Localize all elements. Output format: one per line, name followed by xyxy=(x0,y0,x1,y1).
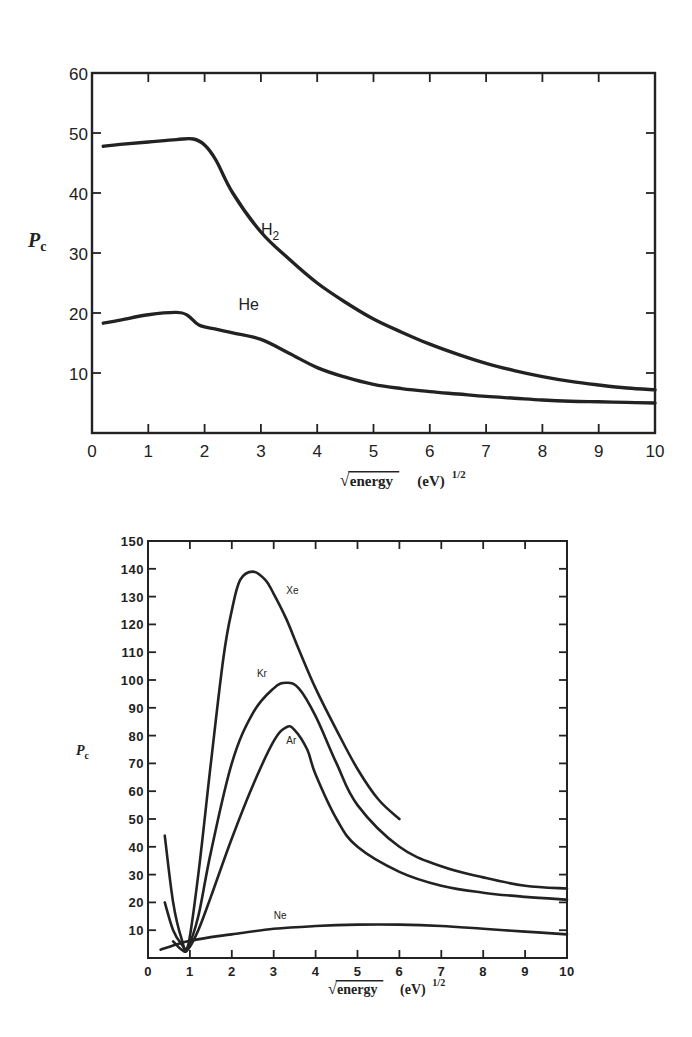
x-tick-label: 5 xyxy=(369,442,378,461)
y-tick-label: 10 xyxy=(129,923,144,938)
sqrt-symbol: √ xyxy=(328,980,337,997)
y-tick-label: 140 xyxy=(121,562,144,577)
x-tick-label: 1 xyxy=(144,442,153,461)
x-axis-label: √energy(eV)1/2 xyxy=(328,977,445,998)
x-tick-labels: 012345678910 xyxy=(144,964,575,979)
y-tick-label: 40 xyxy=(129,840,144,855)
y-axis-label: Pc xyxy=(76,743,90,761)
series-label-he: He xyxy=(238,296,259,313)
x-tick-label: 2 xyxy=(228,964,236,979)
axis-ticks xyxy=(92,73,655,433)
x-tick-label: 8 xyxy=(479,964,487,979)
plot-frame xyxy=(92,73,655,433)
x-tick-label: 9 xyxy=(594,442,603,461)
y-tick-label: 80 xyxy=(129,729,144,744)
y-tick-label: 20 xyxy=(69,305,88,324)
x-tick-label: 3 xyxy=(256,442,265,461)
series-line-ne xyxy=(161,924,567,949)
x-tick-label: 10 xyxy=(559,964,574,979)
x-tick-label: 7 xyxy=(481,442,490,461)
y-tick-label: 30 xyxy=(69,245,88,264)
y-tick-label: 20 xyxy=(129,895,144,910)
x-axis-term: energy xyxy=(350,473,394,489)
series-label-xe: Xe xyxy=(286,585,299,596)
x-tick-label: 2 xyxy=(200,442,209,461)
y-tick-label: 90 xyxy=(129,701,144,716)
y-tick-label: 150 xyxy=(121,534,144,549)
x-axis-term: energy xyxy=(337,982,377,997)
series-label-ar: Ar xyxy=(286,735,297,746)
sqrt-symbol: √ xyxy=(340,471,350,490)
x-tick-label: 1 xyxy=(186,964,194,979)
y-axis-label: Pc xyxy=(27,229,46,254)
x-tick-label: 0 xyxy=(144,964,152,979)
series-line-he xyxy=(103,312,655,403)
x-axis-label: √energy(eV)1/2 xyxy=(340,468,466,490)
x-tick-labels: 012345678910 xyxy=(87,442,664,461)
series-lines xyxy=(103,139,655,403)
series-line-kr xyxy=(165,683,567,949)
chart-xe-kr-ar-ne: 012345678910 102030405060708090100110120… xyxy=(76,534,575,998)
y-tick-label: 40 xyxy=(69,185,88,204)
y-tick-label: 50 xyxy=(69,125,88,144)
figure-canvas: 012345678910 102030405060 H2He Pc √energ… xyxy=(0,0,692,1037)
x-tick-label: 4 xyxy=(312,964,320,979)
series-line-h2 xyxy=(103,139,655,390)
x-tick-label: 8 xyxy=(538,442,547,461)
y-tick-labels: 102030405060708090100110120130140150 xyxy=(121,534,144,938)
series-line-xe xyxy=(165,572,400,952)
x-tick-label: 5 xyxy=(354,964,362,979)
x-tick-label: 9 xyxy=(521,964,529,979)
x-tick-label: 3 xyxy=(270,964,278,979)
y-tick-labels: 102030405060 xyxy=(69,65,88,384)
y-tick-label: 130 xyxy=(121,590,144,605)
x-tick-label: 0 xyxy=(87,442,96,461)
x-axis-exponent: 1/2 xyxy=(432,977,445,988)
x-tick-label: 4 xyxy=(312,442,321,461)
y-tick-label: 120 xyxy=(121,617,144,632)
y-tick-label: 100 xyxy=(121,673,144,688)
x-tick-label: 10 xyxy=(646,442,665,461)
series-label-ne: Ne xyxy=(274,910,287,921)
y-tick-label: 30 xyxy=(129,868,144,883)
y-tick-label: 50 xyxy=(129,812,144,827)
y-tick-label: 60 xyxy=(69,65,88,84)
x-axis-unit: (eV) xyxy=(400,982,426,998)
series-labels: H2He xyxy=(238,221,279,313)
series-lines xyxy=(161,572,567,952)
y-tick-label: 10 xyxy=(69,365,88,384)
x-axis-exponent: 1/2 xyxy=(452,468,466,480)
y-tick-label: 70 xyxy=(129,756,144,771)
x-tick-label: 6 xyxy=(425,442,434,461)
y-tick-label: 60 xyxy=(129,784,144,799)
chart-h2-he: 012345678910 102030405060 H2He Pc √energ… xyxy=(27,65,664,490)
x-tick-label: 6 xyxy=(396,964,404,979)
x-axis-unit: (eV) xyxy=(417,473,444,490)
y-tick-label: 110 xyxy=(122,645,144,660)
series-label-kr: Kr xyxy=(257,668,268,679)
